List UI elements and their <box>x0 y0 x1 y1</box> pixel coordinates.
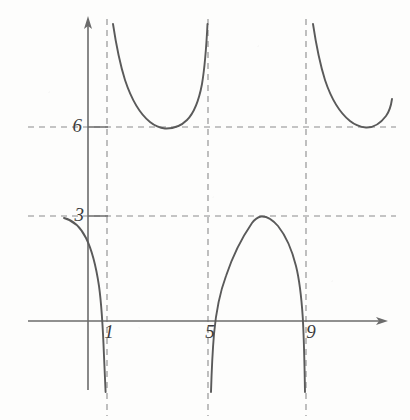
x-tick-label-9: 9 <box>302 322 320 341</box>
tick-marks <box>88 127 108 216</box>
y-tick-label-6: 6 <box>64 116 82 135</box>
curve-branch-u-last <box>313 24 392 128</box>
curve-branch-u-first <box>113 24 208 129</box>
horizontal-guide-lines <box>28 127 396 216</box>
x-tick-label-5: 5 <box>201 322 219 341</box>
plot-canvas <box>0 0 410 420</box>
x-tick-label-1: 1 <box>100 322 118 341</box>
curve-branch-arch-middle <box>211 216 305 392</box>
curve-branch-left <box>64 218 106 392</box>
y-tick-label-3: 3 <box>66 205 84 224</box>
graph-figure: 6 3 1 5 9 <box>0 0 410 420</box>
asymptote-lines <box>107 19 306 416</box>
